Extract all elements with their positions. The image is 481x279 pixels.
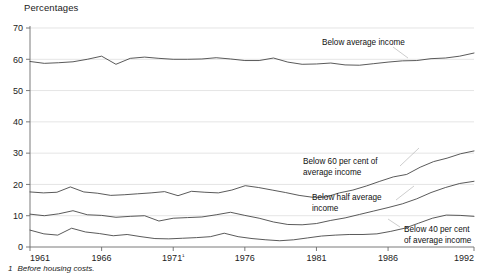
annotation-below-60-percent: Below 60 per cent of average income	[303, 157, 378, 178]
annotation-line: Below half average	[312, 193, 382, 204]
y-tick-label: 30	[13, 148, 23, 158]
footnote-text: Before housing costs.	[17, 264, 94, 273]
y-tick-label: 50	[13, 86, 23, 96]
x-tick-label: 1966	[92, 253, 112, 263]
annotation-line: of average income	[404, 236, 471, 247]
annotation-below-average-income: Below average income	[322, 38, 405, 49]
y-axis: 010203040506070	[13, 23, 30, 252]
x-tick-label: 1961	[30, 253, 50, 263]
series-lines	[30, 53, 474, 241]
annotation-line: Below average income	[322, 38, 405, 49]
x-axis: 196119661971¹1976198119861992	[30, 247, 474, 263]
y-tick-label: 60	[13, 55, 23, 65]
footnote: 1Before housing costs.	[8, 264, 94, 273]
series-line-1	[30, 151, 474, 197]
gridlines	[30, 28, 474, 216]
x-tick-label: 1981	[306, 253, 326, 263]
x-tick-label: 1976	[235, 253, 255, 263]
x-tick-label: 1992	[454, 253, 474, 263]
y-tick-label: 40	[13, 117, 23, 127]
annotation-line: income	[312, 204, 382, 215]
annotation-below-half-average: Below half average income	[312, 193, 382, 214]
annotation-line: average income	[303, 168, 378, 179]
annotation-line: Below 40 per cent	[404, 225, 471, 236]
annotation-line: Below 60 per cent of	[303, 157, 378, 168]
x-tick-label: 1971¹	[162, 252, 185, 263]
y-tick-label: 70	[13, 23, 23, 33]
footnote-marker: 1	[8, 264, 12, 273]
y-tick-label: 20	[13, 180, 23, 190]
series-line-2	[30, 181, 474, 224]
y-tick-label: 10	[13, 211, 23, 221]
y-tick-label: 0	[18, 242, 23, 252]
annotation-below-40-percent: Below 40 per cent of average income	[404, 225, 471, 246]
chart-container: Percentages 010203040506070 196119661971…	[0, 0, 481, 279]
x-tick-label: 1986	[378, 253, 398, 263]
